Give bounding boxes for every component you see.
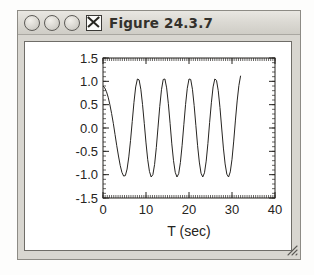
- maximize-circle-icon[interactable]: [64, 15, 80, 31]
- resize-grip-icon[interactable]: [284, 243, 299, 258]
- svg-text:T (sec): T (sec): [167, 223, 210, 239]
- svg-text:1.5: 1.5: [80, 51, 98, 66]
- svg-text:0.5: 0.5: [80, 97, 98, 112]
- zoom-circle-icon[interactable]: [44, 15, 60, 31]
- screen-root: Figure 24.3.7 0102030401.51.00.50.0-0.5-…: [0, 0, 314, 275]
- svg-text:40: 40: [268, 202, 282, 217]
- window-title: Figure 24.3.7: [109, 15, 213, 31]
- plot-canvas: 0102030401.51.00.50.0-0.5-1.0-1.5T (sec): [24, 41, 292, 251]
- svg-text:20: 20: [182, 202, 196, 217]
- figure-window: Figure 24.3.7 0102030401.51.00.50.0-0.5-…: [17, 10, 301, 260]
- svg-text:0.0: 0.0: [80, 121, 98, 136]
- svg-text:10: 10: [139, 202, 153, 217]
- svg-text:1.0: 1.0: [80, 74, 98, 89]
- svg-text:-0.5: -0.5: [76, 144, 98, 159]
- close-x-icon[interactable]: [86, 15, 102, 31]
- svg-text:0: 0: [99, 202, 106, 217]
- minimize-circle-icon[interactable]: [24, 15, 40, 31]
- window-titlebar[interactable]: Figure 24.3.7: [18, 11, 300, 35]
- svg-text:-1.5: -1.5: [76, 191, 98, 206]
- svg-text:-1.0: -1.0: [76, 167, 98, 182]
- figure-plot: 0102030401.51.00.50.0-0.5-1.0-1.5T (sec): [25, 42, 293, 252]
- svg-text:30: 30: [225, 202, 239, 217]
